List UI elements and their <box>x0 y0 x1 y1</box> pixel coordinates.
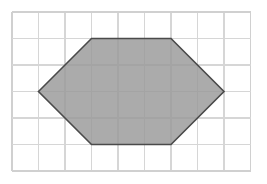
figure-root <box>0 0 267 184</box>
geometry-figure <box>0 0 267 184</box>
